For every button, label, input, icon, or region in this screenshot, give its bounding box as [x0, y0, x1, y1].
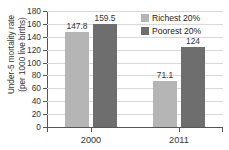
y-axis-tick-label: 160 [27, 19, 41, 29]
y-axis-tick-label: 60 [32, 83, 41, 93]
y-axis-tick [43, 88, 47, 89]
y-axis-tick-label: 120 [27, 45, 41, 55]
y-axis-tick [43, 37, 47, 38]
bar-chart: Under-5 mortality rate (per 1000 live bi… [0, 0, 229, 150]
y-axis-tick [43, 11, 47, 12]
bar-value-label: 124 [186, 36, 200, 46]
x-axis-tick-label: 2011 [169, 135, 189, 145]
legend-item-richest: Richest 20% [141, 13, 201, 23]
bar-value-label: 159.5 [95, 13, 116, 23]
legend-swatch-richest [141, 14, 149, 22]
y-axis-tick-label: 80 [32, 70, 41, 80]
y-axis-tick-label: 180 [27, 6, 41, 16]
x-axis-tick [179, 128, 180, 132]
x-axis-line [47, 127, 223, 128]
y-axis-tick-label: 40 [32, 96, 41, 106]
y-axis-tick-label: 100 [27, 58, 41, 68]
y-axis-tick [43, 114, 47, 115]
y-axis-title: Under-5 mortality rate (per 1000 live bi… [7, 0, 28, 110]
legend-label-richest: Richest 20% [152, 13, 200, 23]
y-axis-tick-label: 140 [27, 32, 41, 42]
y-axis-tick [43, 24, 47, 25]
x-axis-edge-tick [222, 128, 223, 132]
y-axis-tick [43, 63, 47, 64]
y-axis-title-line-1: Under-5 mortality rate [7, 0, 18, 110]
legend-swatch-poorest [141, 27, 149, 35]
x-axis-tick-label: 2000 [81, 135, 101, 145]
bar: 159.5 [93, 24, 117, 127]
y-axis-line [47, 11, 48, 128]
legend: Richest 20% Poorest 20% [141, 13, 201, 36]
bar: 147.8 [65, 32, 89, 127]
y-axis-tick [43, 50, 47, 51]
bar: 71.1 [153, 81, 177, 127]
y-axis-tick [43, 75, 47, 76]
bar-value-label: 71.1 [157, 70, 173, 80]
bar: 124 [181, 47, 205, 127]
legend-item-poorest: Poorest 20% [141, 26, 201, 36]
x-axis-tick [91, 128, 92, 132]
y-axis-tick [43, 101, 47, 102]
y-axis-tick-label: 0 [36, 122, 41, 132]
y-axis-tick-label: 20 [32, 109, 41, 119]
legend-label-poorest: Poorest 20% [152, 26, 201, 36]
bar-value-label: 147.8 [67, 21, 88, 31]
y-axis-title-line-2: (per 1000 live births) [17, 0, 28, 110]
gridline [47, 11, 223, 12]
x-axis-edge-tick [47, 128, 48, 132]
